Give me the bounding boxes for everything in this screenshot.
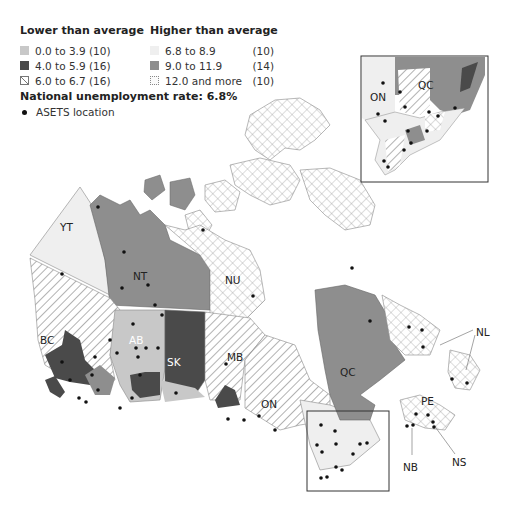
label-yt: YT <box>59 221 73 233</box>
label-on: ON <box>261 398 277 410</box>
swatch-diagonal-hatch <box>20 76 29 85</box>
legend-range: 4.0 to 5.9 <box>35 60 86 72</box>
legend-higher-title: Higher than average <box>150 24 274 37</box>
national-rate: National unemployment rate: 6.8% <box>20 90 237 103</box>
swatch-light-gray <box>20 46 29 55</box>
swatch-dark-gray <box>20 61 29 70</box>
label-nt: NT <box>133 270 148 282</box>
arctic-islands-gray <box>144 175 195 210</box>
label-nu: NU <box>225 274 241 286</box>
label-qc: QC <box>340 366 356 378</box>
legend-count: (10) <box>252 45 274 57</box>
legend-count: (16) <box>89 75 111 87</box>
legend-count: (16) <box>89 60 111 72</box>
legend-item: 6.0 to 6.7 (16) <box>20 73 142 88</box>
legend-item: 0.0 to 3.9 (10) <box>20 43 142 58</box>
legend-item: 9.0 to 11.9(14) <box>150 58 274 73</box>
svg-text:QC: QC <box>418 79 434 91</box>
legend-item: 12.0 and more(10) <box>150 73 274 88</box>
legend-higher: Higher than average 6.8 to 8.9(10) 9.0 t… <box>150 24 274 88</box>
label-mb: MB <box>227 351 243 363</box>
asets-label: ASETS location <box>36 106 115 118</box>
legend-item: 4.0 to 5.9 (16) <box>20 58 142 73</box>
legend-count: (10) <box>89 45 111 57</box>
svg-text:ON: ON <box>370 91 386 103</box>
legend-range: 0.0 to 3.9 <box>35 45 86 57</box>
label-ns: NS <box>452 456 467 468</box>
asets-legend: ASETS location <box>20 106 115 118</box>
label-ab: AB <box>129 334 143 346</box>
label-nb: NB <box>403 461 418 473</box>
legend-lower-title: Lower than average <box>20 24 142 37</box>
legend-range: 6.8 to 8.9 <box>165 45 216 57</box>
legend-count: (14) <box>252 60 274 72</box>
legend-item: 6.8 to 8.9(10) <box>150 43 274 58</box>
label-sk: SK <box>167 356 182 368</box>
legend-lower: Lower than average 0.0 to 3.9 (10) 4.0 t… <box>20 24 142 88</box>
swatch-very-light-gray <box>150 46 159 55</box>
legend-range: 6.0 to 6.7 <box>35 75 86 87</box>
label-bc: BC <box>40 334 54 346</box>
asets-dot-icon <box>22 110 27 115</box>
legend-range: 12.0 and more <box>165 75 242 87</box>
inset-map: ON QC <box>361 56 488 182</box>
legend-range: 9.0 to 11.9 <box>165 60 222 72</box>
arctic-islands <box>185 98 375 238</box>
label-nl: NL <box>476 326 490 338</box>
legend-count: (10) <box>252 75 274 87</box>
region-nl-island <box>448 350 480 390</box>
region-sk <box>165 310 205 395</box>
swatch-medium-gray <box>150 61 159 70</box>
label-pe: PE <box>421 395 434 407</box>
swatch-cross-hatch <box>150 76 159 85</box>
